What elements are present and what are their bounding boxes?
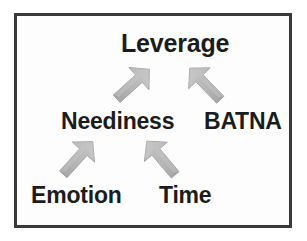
node-label-time: Time [159,184,211,207]
node-label-emotion: Emotion [31,184,122,207]
node-label-batna: BATNA [204,110,282,133]
arrow-up-left-icon-time-to-neediness [140,134,182,182]
node-label-leverage: Leverage [121,31,229,56]
arrow-up-left-icon-batna-to-leverage [184,60,226,108]
diagram-canvas: Leverage Neediness BATNA Emotion Time [0,0,307,241]
arrow-up-right-icon-emotion-to-neediness [57,134,99,182]
arrow-up-right-icon-neediness-to-leverage [112,60,154,108]
node-label-neediness: Neediness [61,110,174,133]
